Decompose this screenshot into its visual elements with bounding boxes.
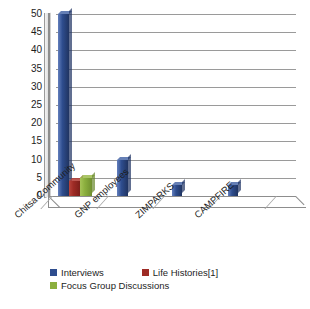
legend-swatch-icon (50, 282, 57, 289)
bar-life-histories-chitsa-community (69, 181, 80, 196)
legend-label: Focus Group Discussions (61, 280, 169, 291)
legend-swatch-icon (50, 269, 57, 276)
legend-item-life-histories: Life Histories[1] (142, 267, 218, 278)
x-axis-tick-labels: Chitsa Community GNP employees ZIMPARKS … (0, 196, 310, 262)
legend-swatch-icon (142, 269, 149, 276)
bar-chart: 50 45 40 35 30 25 20 15 10 5 0 (0, 0, 310, 309)
legend-item-focus-group-discussions: Focus Group Discussions (50, 280, 169, 291)
plot-area: 50 45 40 35 30 25 20 15 10 5 0 (0, 0, 310, 262)
legend-label: Life Histories[1] (153, 267, 218, 278)
legend-row: Interviews Life Histories[1] (50, 266, 290, 279)
legend-row: Focus Group Discussions (50, 279, 290, 292)
legend-item-interviews: Interviews (50, 267, 104, 278)
legend-label: Interviews (61, 267, 104, 278)
chart-legend: Interviews Life Histories[1] Focus Group… (50, 266, 290, 292)
bar-focus-group-discussions-chitsa-community (80, 178, 92, 196)
